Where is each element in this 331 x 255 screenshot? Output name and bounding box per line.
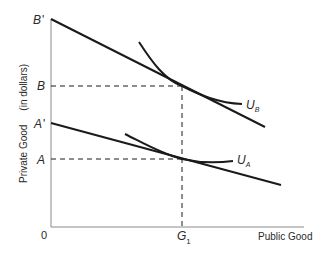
budget-line-B-prime <box>51 19 265 127</box>
origin-label: 0 <box>41 229 47 241</box>
diagram: B' B A' A 0 G1 Public Good Private Good(… <box>0 0 331 255</box>
indifference-curve-UB <box>139 42 242 104</box>
label-B-prime: B' <box>33 13 44 27</box>
y-axis-label: Private Good(in dollars) <box>18 64 29 183</box>
label-A-prime: A' <box>33 117 45 131</box>
label-UA: UA <box>237 153 251 168</box>
label-A: A <box>36 153 45 167</box>
label-UB: UB <box>246 98 260 113</box>
label-B: B <box>37 79 45 93</box>
x-axis-label: Public Good <box>258 231 312 242</box>
label-G1: G1 <box>177 229 191 246</box>
